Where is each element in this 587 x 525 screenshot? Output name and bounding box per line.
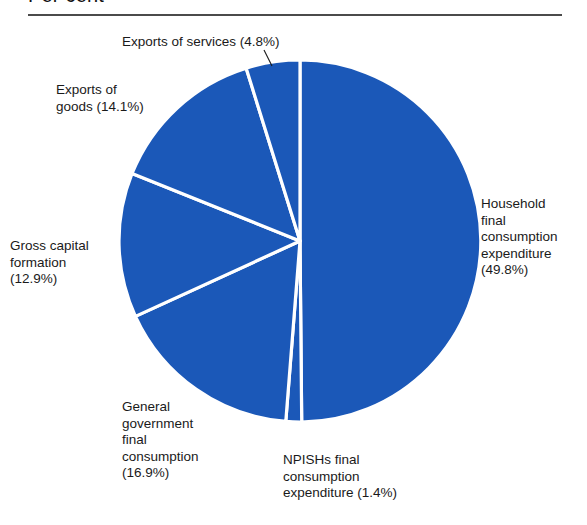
pie-label-exports-of-goods: Exports of goods (14.1%) <box>56 82 144 115</box>
pie-label-npishs: NPISHs final consumption expenditure (1.… <box>283 452 397 502</box>
pie-chart-figure: Per cent Exports of services (4.8%) Expo… <box>0 0 587 525</box>
pie-label-gross-capital-formation: Gross capital formation (12.9%) <box>10 238 89 288</box>
pie-label-exports-of-services: Exports of services (4.8%) <box>122 34 280 51</box>
pie-label-household: Household final consumption expenditure … <box>481 196 558 279</box>
pie-label-general-government: General government final consumption (16… <box>122 399 199 482</box>
pie-slice-group <box>119 60 481 422</box>
pie-slice <box>300 60 481 422</box>
